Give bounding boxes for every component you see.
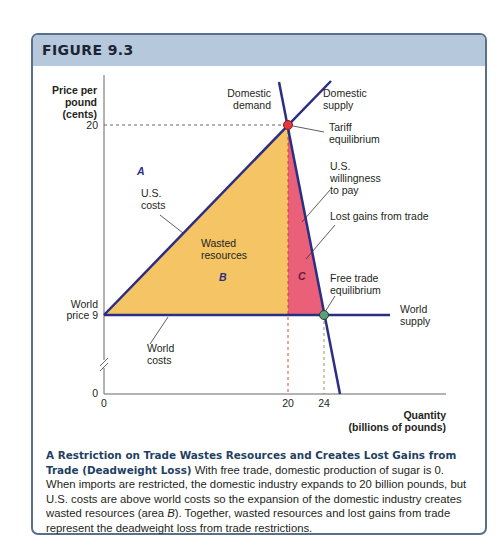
x-tick-24: 24 — [318, 397, 330, 409]
area-a-label: A — [136, 165, 145, 177]
world-costs-label: World — [147, 342, 174, 354]
area-c-label: C — [298, 270, 306, 282]
y-tick-0: 0 — [92, 387, 98, 399]
free-trade-equilibrium-label: equilibrium — [330, 284, 381, 296]
domestic-supply-label: Domestic — [323, 87, 367, 99]
free-trade-equilibrium-point — [320, 311, 329, 320]
willingness-to-pay-label: willingness — [329, 172, 381, 184]
x-axis-label: Quantity — [403, 409, 446, 421]
wasted-resources-label: resources — [201, 249, 247, 261]
domestic-supply-label: supply — [323, 99, 354, 111]
world-supply-label: supply — [400, 315, 431, 327]
y-tick-20: 20 — [86, 119, 98, 131]
x-axis-label: (billions of pounds) — [349, 421, 446, 433]
x-tick-20: 20 — [282, 397, 294, 409]
world-supply-label: World — [400, 303, 427, 315]
world-price-label: price 9 — [66, 309, 98, 321]
free-trade-equilibrium-label: Free trade — [330, 272, 379, 284]
domestic-demand-label: Domestic — [227, 87, 271, 99]
willingness-to-pay-label: U.S. — [330, 160, 350, 172]
y-axis-label: Price per — [52, 84, 97, 96]
figure-caption: A Restriction on Trade Wastes Resources … — [46, 448, 476, 536]
lost-gains-label: Lost gains from trade — [330, 210, 429, 222]
domestic-demand-label: demand — [233, 99, 271, 111]
us-costs-label: U.S. — [141, 187, 161, 199]
world-costs-label: costs — [147, 354, 172, 366]
caption-italic: B — [167, 507, 175, 519]
y-axis-label: pound — [65, 96, 97, 108]
area-b-label: B — [219, 271, 227, 283]
willingness-to-pay-label: to pay — [330, 184, 359, 196]
x-tick-0: 0 — [101, 397, 107, 409]
us-costs-label: costs — [141, 199, 166, 211]
wasted-resources-label: Wasted — [201, 237, 236, 249]
tariff-equilibrium-label: Tariff — [329, 121, 352, 133]
tariff-equilibrium-label: equilibrium — [329, 133, 380, 145]
tariff-equilibrium-point — [284, 121, 293, 130]
